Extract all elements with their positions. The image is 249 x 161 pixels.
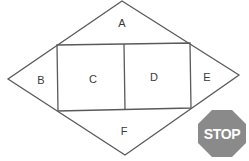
region-label-b: B xyxy=(37,74,44,86)
rhombus-diagram: A B C D E F STOP xyxy=(0,0,249,161)
stop-sign-text: STOP xyxy=(204,126,241,142)
region-label-f: F xyxy=(121,125,128,137)
region-label-d: D xyxy=(150,71,158,83)
region-label-a: A xyxy=(118,17,126,29)
stop-sign-icon: STOP xyxy=(198,110,246,157)
region-label-e: E xyxy=(203,71,210,83)
region-label-c: C xyxy=(89,73,97,85)
center-divider xyxy=(124,44,125,110)
